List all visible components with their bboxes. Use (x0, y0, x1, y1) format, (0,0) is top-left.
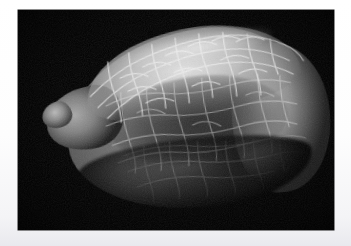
screenshot-root (0, 0, 351, 246)
micrograph-field (18, 10, 334, 230)
specimen-stage (18, 10, 334, 230)
